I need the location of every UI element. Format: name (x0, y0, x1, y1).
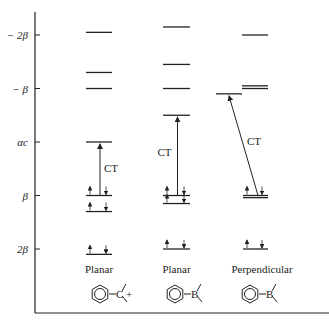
conformation-caption: Perpendicular (231, 263, 292, 275)
column-2: CTPlanarB (158, 27, 203, 303)
column-3: CTPerpendicularB (216, 35, 293, 303)
axis-tick-label: αc (17, 136, 28, 148)
axis-tick-label: − β (12, 83, 28, 95)
charge-label: + (126, 288, 132, 300)
energy-level-diagram: − 2β− βαcβ2β CTPlanarC+CTPlanarBCTPerpen… (0, 0, 329, 325)
ct-label: CT (158, 146, 172, 158)
aromatic-circle (95, 289, 106, 300)
molecule-structure: B (167, 284, 202, 303)
aromatic-circle (245, 289, 256, 300)
axis-tick-label: − 2β (7, 29, 29, 41)
axis-tick-label: 2β (17, 243, 29, 255)
conformation-caption: Planar (162, 263, 190, 275)
axis-tick-label: β (22, 190, 29, 202)
ct-label: CT (247, 135, 261, 147)
aromatic-circle (170, 289, 181, 300)
conformation-caption: Planar (85, 263, 113, 275)
ct-label: CT (104, 162, 118, 174)
column-1: CTPlanarC+ (85, 32, 132, 303)
molecule-structure: C+ (92, 284, 132, 303)
molecule-structure: B (242, 284, 277, 303)
